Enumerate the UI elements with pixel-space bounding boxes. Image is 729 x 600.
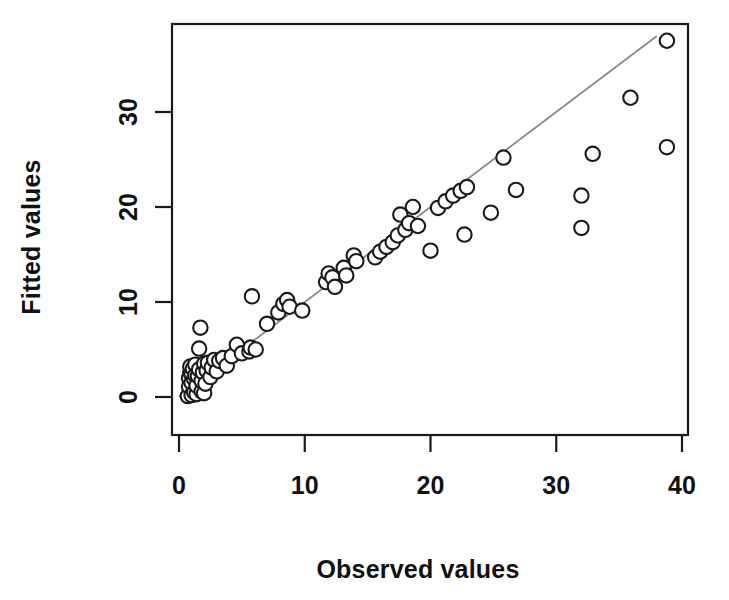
data-point: [245, 289, 259, 303]
y-axis-ticks-group: 0102030: [114, 98, 172, 404]
x-tick-label: 20: [417, 471, 445, 499]
data-point: [496, 150, 510, 164]
scatter-plot-canvas: 010203040 0102030 Observed values Fitted…: [0, 0, 729, 600]
data-point: [484, 206, 498, 220]
data-point: [509, 183, 523, 197]
x-axis-ticks-group: 010203040: [172, 435, 696, 499]
data-points-group: [181, 34, 675, 404]
data-point: [249, 342, 263, 356]
data-point: [349, 254, 363, 268]
x-axis-title: Observed values: [316, 555, 519, 583]
data-point: [423, 244, 437, 258]
data-point: [295, 303, 309, 317]
x-tick-label: 10: [291, 471, 319, 499]
y-tick-label: 10: [114, 288, 142, 316]
plot-frame: [172, 24, 688, 435]
data-point: [574, 221, 588, 235]
data-point: [411, 219, 425, 233]
chart-figure: 010203040 0102030 Observed values Fitted…: [0, 0, 729, 600]
y-tick-label: 30: [114, 98, 142, 126]
data-point: [660, 140, 674, 154]
data-point: [586, 147, 600, 161]
x-tick-label: 30: [542, 471, 570, 499]
y-axis-title: Fitted values: [17, 159, 45, 314]
data-point: [574, 188, 588, 202]
data-point: [328, 280, 342, 294]
y-tick-label: 0: [114, 390, 142, 404]
data-point: [623, 91, 637, 105]
data-point: [406, 200, 420, 214]
x-tick-label: 40: [668, 471, 696, 499]
data-point: [660, 34, 674, 48]
x-tick-label: 0: [172, 471, 186, 499]
data-point: [457, 227, 471, 241]
data-point: [193, 320, 207, 334]
data-point: [460, 180, 474, 194]
data-point: [260, 317, 274, 331]
data-point: [339, 268, 353, 282]
data-point: [192, 341, 206, 355]
y-tick-label: 20: [114, 193, 142, 221]
